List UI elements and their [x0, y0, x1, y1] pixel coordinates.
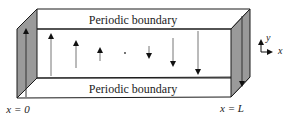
- bottom-boundary-label: Periodic boundary: [89, 82, 177, 96]
- left-wall-label: x = 0: [5, 103, 30, 115]
- x-axis-label: x: [277, 45, 283, 56]
- y-axis-label: y: [265, 32, 271, 43]
- shear-flow-box-diagram: Periodic boundary Periodic boundary x = …: [0, 0, 298, 117]
- right-wall-label: x = L: [219, 102, 244, 114]
- zero-velocity-dot: [124, 52, 126, 54]
- top-boundary-label: Periodic boundary: [89, 13, 177, 27]
- coordinate-axes: y x: [261, 32, 283, 56]
